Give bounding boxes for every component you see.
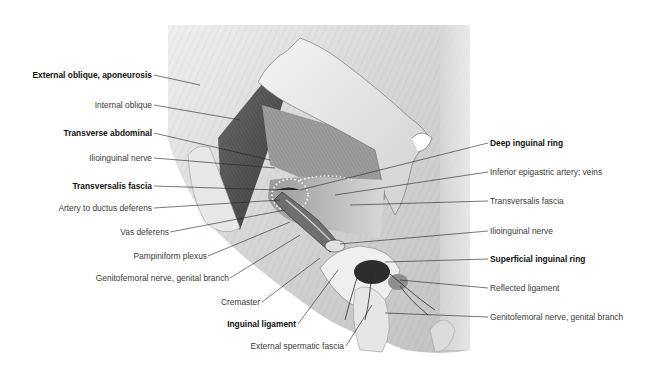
label-reflected-ligament: Reflected ligament: [490, 283, 559, 293]
label-inferior-epigastric-artery-veins: Inferior epigastric artery; veins: [490, 167, 602, 177]
label-deep-inguinal-ring: Deep inguinal ring: [490, 138, 563, 148]
label-external-oblique-aponeurosis: External oblique, aponeurosis: [32, 70, 152, 80]
label-genitofemoral-nerve-left: Genitofemoral nerve, genital branch: [96, 273, 229, 283]
label-transversalis-fascia-right: Transversalis fascia: [490, 196, 564, 206]
label-superficial-inguinal-ring: Superficial inguinal ring: [490, 254, 585, 264]
label-ilioinguinal-nerve-left: Ilioinguinal nerve: [89, 153, 152, 163]
label-cremaster: Cremaster: [221, 297, 260, 307]
label-external-spermatic-fascia: External spermatic fascia: [250, 341, 344, 351]
anatomy-figure: External oblique, aponeurosis Internal o…: [0, 0, 660, 373]
label-ilioinguinal-nerve-right: Ilioinguinal nerve: [490, 226, 553, 236]
label-internal-oblique: Internal oblique: [95, 100, 152, 110]
label-pampiniform-plexus: Pampiniform plexus: [133, 251, 207, 261]
label-artery-to-ductus-deferens: Artery to ductus deferens: [58, 203, 152, 213]
label-genitofemoral-nerve-right: Genitofemoral nerve, genital branch: [490, 312, 623, 322]
label-transversalis-fascia-left: Transversalis fascia: [72, 181, 152, 191]
label-inguinal-ligament: Inguinal ligament: [227, 319, 296, 329]
label-transverse-abdominal: Transverse abdominal: [64, 128, 152, 138]
label-vas-deferens: Vas deferens: [120, 227, 169, 237]
